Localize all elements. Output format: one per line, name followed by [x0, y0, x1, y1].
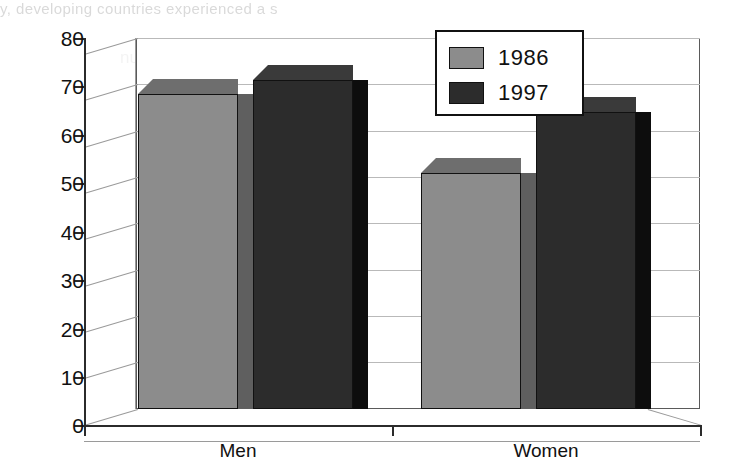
- bar-side-face: [353, 80, 368, 409]
- x-label-women: Women: [446, 440, 646, 459]
- depth-line-60: [84, 131, 138, 148]
- y-tick-20: 20: [74, 329, 84, 331]
- legend-swatch-1997-icon: [449, 82, 484, 104]
- bar-side-face: [521, 173, 536, 410]
- y-tick-label-10: 10: [18, 366, 84, 390]
- y-tick-50: 50: [74, 183, 84, 185]
- x-label-men: Men: [138, 440, 338, 459]
- bar-chart: 80 70 60 50 40 30 20 10 0 Men Women 1986…: [0, 22, 730, 437]
- y-tick-label-20: 20: [18, 318, 84, 342]
- legend-item-1997[interactable]: 1997: [449, 75, 582, 110]
- bar-top-face: [253, 65, 353, 80]
- x-tick-left: [84, 425, 86, 436]
- bar-women-1997[interactable]: [536, 112, 636, 409]
- bar-side-face: [238, 94, 253, 409]
- y-tick-70: 70: [74, 86, 84, 88]
- y-tick-label-30: 30: [18, 269, 84, 293]
- depth-line-20: [84, 316, 138, 333]
- bar-front-face: [421, 173, 521, 410]
- chart-left-depth-face: [84, 38, 137, 425]
- page-bleed-top-text: y, developing countries experienced a s: [0, 0, 730, 18]
- y-tick-label-70: 70: [18, 75, 84, 99]
- plot-area: [84, 38, 700, 425]
- depth-line-50: [84, 177, 138, 194]
- legend-label-1997: 1997: [498, 80, 549, 106]
- bar-men-1997[interactable]: [253, 80, 353, 409]
- y-tick-40: 40: [74, 232, 84, 234]
- bar-women-1986[interactable]: [421, 173, 521, 410]
- x-tick-right: [700, 425, 702, 436]
- chart-legend: 1986 1997: [435, 30, 584, 116]
- gridline-80: [136, 38, 700, 39]
- y-tick-label-50: 50: [18, 172, 84, 196]
- floor-right-edge: [648, 409, 702, 426]
- y-tick-label-80: 80: [18, 27, 84, 51]
- depth-line-80: [84, 38, 138, 55]
- y-tick-label-40: 40: [18, 221, 84, 245]
- y-axis: [84, 38, 86, 425]
- bar-top-face: [138, 79, 238, 94]
- bar-side-face: [636, 112, 651, 409]
- y-tick-label-60: 60: [18, 124, 84, 148]
- bar-front-face: [138, 94, 238, 409]
- bar-top-face: [421, 158, 521, 173]
- legend-item-1986[interactable]: 1986: [449, 40, 582, 75]
- y-tick-80: 80: [74, 38, 84, 40]
- y-tick-0: 0: [74, 425, 84, 427]
- legend-swatch-1986-icon: [449, 47, 484, 69]
- bar-front-face: [536, 112, 636, 409]
- depth-line-70: [84, 84, 138, 101]
- depth-line-30: [84, 270, 138, 287]
- y-tick-label-0: 0: [18, 414, 84, 438]
- y-tick-60: 60: [74, 135, 84, 137]
- legend-label-1986: 1986: [498, 45, 549, 71]
- x-tick-middle: [392, 425, 394, 436]
- y-tick-10: 10: [74, 377, 84, 379]
- depth-vertical-back-left: [135, 38, 136, 409]
- bar-men-1986[interactable]: [138, 94, 238, 409]
- y-tick-30: 30: [74, 280, 84, 282]
- depth-line-10: [84, 362, 138, 379]
- bar-front-face: [253, 80, 353, 409]
- depth-line-40: [84, 223, 138, 240]
